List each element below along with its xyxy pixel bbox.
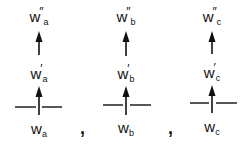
separator-comma-1: , <box>80 118 85 139</box>
label-w-c-prime: w′c <box>182 65 242 86</box>
separator-comma-2: , <box>168 118 173 139</box>
label-w-b-prime: w′b <box>96 66 156 87</box>
label-w-c: wc <box>182 119 242 140</box>
label-w-b-double-prime: w″b <box>96 9 156 30</box>
label-w-a: wa <box>9 121 69 142</box>
label-w-c-double-prime: w″c <box>182 9 242 30</box>
column-b: w″b w′b wb <box>96 0 156 145</box>
column-a: w″a w′a wa <box>9 0 69 145</box>
label-w-b: wb <box>96 120 156 141</box>
label-w-a-prime: w′a <box>9 66 69 87</box>
label-w-a-double-prime: w″a <box>9 9 69 30</box>
column-c: w″c w′c wc <box>182 0 242 145</box>
